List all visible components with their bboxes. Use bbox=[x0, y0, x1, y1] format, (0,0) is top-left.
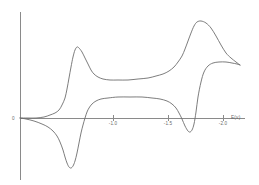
x-axis-title: E(v) bbox=[231, 115, 241, 120]
cv-traces-group bbox=[20, 21, 240, 168]
cyclic-voltammogram-figure: -1.0 -1.5 -2.0 E(v) 0 bbox=[0, 0, 259, 185]
x-tick-label-minus-1-5: -1.5 bbox=[164, 121, 173, 126]
axes-group bbox=[20, 12, 245, 180]
origin-label: 0 bbox=[12, 116, 15, 121]
x-tick-label-minus-2-0: -2.0 bbox=[219, 121, 228, 126]
cv-trace-reverse-anodic bbox=[20, 21, 240, 118]
cv-plot-canvas: -1.0 -1.5 -2.0 E(v) 0 bbox=[0, 0, 259, 185]
cv-trace-forward-cathodic bbox=[20, 62, 240, 168]
x-tick-label-minus-1-0: -1.0 bbox=[109, 121, 118, 126]
